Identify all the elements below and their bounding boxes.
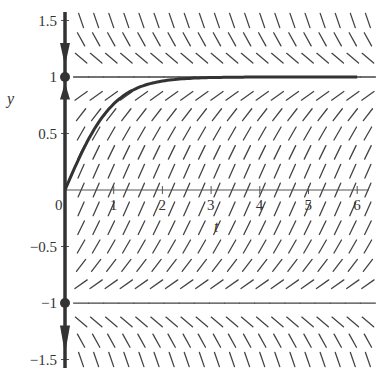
x-tick-label: 2	[158, 197, 166, 213]
slope-segment	[121, 317, 132, 327]
slope-segment	[348, 259, 357, 271]
slope-segment	[319, 127, 326, 140]
slope-segment	[347, 317, 358, 327]
slope-segment	[92, 240, 99, 253]
slope-segment	[274, 146, 281, 159]
slope-segment	[365, 221, 372, 234]
t-axis-label: t	[214, 218, 219, 235]
slope-segment	[198, 334, 205, 347]
slope-segment	[243, 259, 252, 271]
slope-segment	[199, 164, 205, 178]
slope-segment	[365, 352, 370, 366]
slope-segment	[214, 202, 220, 216]
slope-segment	[319, 146, 326, 159]
slope-segment	[256, 280, 268, 289]
slope-segment	[167, 259, 176, 271]
slope-segment	[301, 92, 313, 101]
slope-segment	[153, 334, 160, 347]
slope-segment	[94, 13, 99, 27]
slope-segment	[123, 240, 130, 253]
slope-segment	[154, 164, 160, 178]
slope-segment	[335, 352, 340, 366]
slope-segment	[105, 280, 117, 289]
y-axis-ticks: 1.510.5−0.5−1−1.5	[30, 13, 69, 368]
slope-segment	[259, 334, 266, 347]
slope-segment	[362, 92, 374, 101]
slope-segment	[289, 127, 296, 140]
slope-segment	[365, 146, 372, 159]
slope-segment	[230, 13, 235, 27]
slope-segment	[274, 33, 281, 46]
slope-segment	[245, 13, 250, 27]
slope-segment	[123, 127, 130, 140]
slope-segment	[199, 146, 206, 159]
slope-segment	[273, 259, 282, 271]
slope-segment	[274, 221, 281, 234]
slope-segment	[334, 240, 341, 253]
slope-segment	[350, 164, 356, 178]
slope-segment	[304, 240, 311, 253]
slope-segment	[365, 13, 370, 27]
slope-segment	[334, 127, 341, 140]
slope-segment	[196, 92, 208, 101]
slope-segment	[304, 164, 310, 178]
slope-segment	[150, 280, 162, 289]
slope-segment	[199, 352, 204, 366]
slope-segment	[362, 280, 374, 289]
slope-segment	[93, 221, 100, 234]
slope-segment	[77, 334, 84, 347]
slope-segment	[151, 317, 162, 327]
slope-segment	[184, 352, 189, 366]
slope-segment	[108, 334, 115, 347]
slope-segment	[197, 109, 206, 121]
slope-segment	[152, 109, 161, 121]
slope-segment	[364, 127, 371, 140]
slope-segment	[227, 109, 236, 121]
slope-segment	[332, 53, 343, 63]
slope-segment	[319, 334, 326, 347]
slope-segment	[304, 334, 311, 347]
slope-segment	[364, 33, 371, 46]
slope-segment	[243, 240, 250, 253]
slope-segment	[198, 33, 205, 46]
slope-segment	[320, 13, 325, 27]
slope-segment	[169, 202, 175, 216]
solution-curve	[65, 77, 357, 190]
slope-segment	[214, 146, 221, 159]
slope-segment	[78, 164, 84, 178]
slope-segment	[301, 280, 313, 289]
slope-segment	[259, 221, 266, 234]
slope-segment	[181, 317, 192, 327]
slope-segment	[199, 13, 204, 27]
slope-segment	[168, 127, 175, 140]
slope-segment	[138, 127, 145, 140]
slope-segment	[271, 92, 283, 101]
slope-segment	[215, 352, 220, 366]
slope-segment	[198, 127, 205, 140]
slope-segment	[350, 13, 355, 27]
x-tick-label: 0	[55, 197, 63, 213]
slope-segment	[286, 92, 298, 101]
slope-segment	[335, 202, 341, 216]
slope-segment	[320, 202, 326, 216]
slope-segment	[362, 317, 373, 327]
slope-segment	[107, 259, 116, 271]
slope-segment	[229, 221, 236, 234]
slope-segment	[79, 352, 84, 366]
slope-segment	[350, 221, 357, 234]
slope-segment	[214, 13, 219, 27]
slope-segment	[79, 13, 84, 27]
slope-segment	[243, 127, 250, 140]
slope-segment	[182, 109, 191, 121]
slope-segment	[169, 13, 174, 27]
slope-segment	[123, 33, 130, 46]
slope-segment	[121, 53, 132, 63]
slope-segment	[333, 259, 342, 271]
slope-segment	[213, 33, 220, 46]
slope-segment	[243, 109, 252, 121]
slope-segment	[123, 164, 129, 178]
slope-segment	[316, 280, 328, 289]
slope-segment	[286, 280, 298, 289]
slope-segment	[226, 280, 238, 289]
slope-segment	[364, 240, 371, 253]
